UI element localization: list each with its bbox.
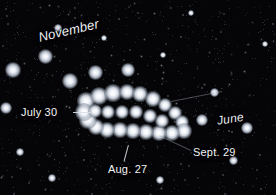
field-star: [101, 35, 107, 41]
astrophoto-image: November June July 30 Aug. 27 Sept. 29: [0, 0, 276, 195]
path-dot: [129, 105, 142, 118]
field-star: [262, 41, 268, 47]
field-star: [88, 65, 103, 80]
field-star: [121, 63, 135, 77]
path-dot: [155, 114, 168, 127]
field-star: [188, 10, 194, 16]
label-sept-29: Sept. 29: [193, 146, 236, 158]
label-aug-27: Aug. 27: [108, 163, 147, 175]
field-star: [160, 52, 166, 58]
field-star: [16, 148, 24, 156]
field-star: [0, 102, 12, 114]
field-star: [196, 114, 208, 126]
field-star: [48, 174, 56, 182]
july-30-leader: [73, 112, 91, 113]
label-july-30: July 30: [21, 106, 57, 118]
field-star: [156, 176, 164, 184]
field-star: [38, 49, 53, 64]
